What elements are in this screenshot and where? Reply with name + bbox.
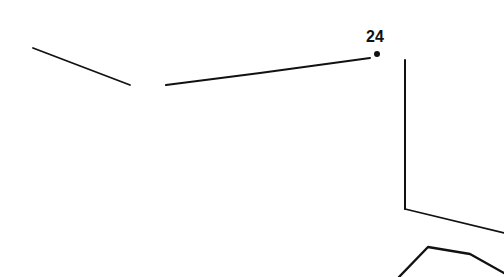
upper-long-line — [166, 58, 370, 85]
lower-diagonal-line — [405, 209, 504, 233]
left-diagonal-line — [33, 48, 130, 85]
drawing-canvas — [0, 0, 504, 277]
dot-label-24: 24 — [366, 29, 384, 45]
bottom-curve — [399, 247, 504, 277]
dot-24 — [374, 51, 380, 57]
